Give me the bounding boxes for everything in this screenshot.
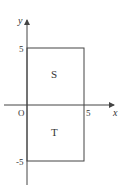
- region-s-label: S: [51, 68, 57, 80]
- origin-label: O: [18, 108, 25, 118]
- coordinate-diagram: y x O 5 5 -5 S T: [0, 0, 125, 194]
- x-tick-5: 5: [86, 108, 91, 118]
- y-axis-label: y: [17, 15, 23, 26]
- y-tick-neg5: -5: [16, 157, 24, 167]
- x-axis-label: x: [112, 107, 118, 118]
- y-tick-5: 5: [19, 44, 24, 54]
- region-t-label: T: [51, 126, 58, 138]
